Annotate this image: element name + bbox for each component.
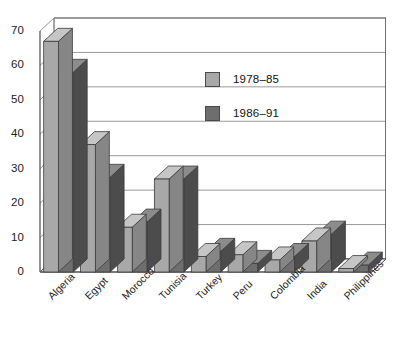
legend-swatch-icon [205,72,220,87]
y-tick-label-10: 10 [0,232,30,244]
legend-label: 1986–91 [233,107,279,119]
legend-swatch-icon [205,106,220,121]
y-tick-label-0: 0 [0,266,30,278]
legend-item-2: 1986–91 [205,96,335,130]
y-axis: 010203040506070 [0,0,30,358]
y-tick-label-30: 30 [0,163,30,175]
chart-legend: 1978–851986–91 [205,62,335,130]
y-tick-label-40: 40 [0,128,30,140]
y-tick-label-20: 20 [0,197,30,209]
bar-algeria-series1 [44,28,73,272]
legend-item-1: 1978–85 [205,62,335,96]
y-tick-label-60: 60 [0,59,30,71]
y-tick-label-70: 70 [0,25,30,37]
bars-layer [34,14,386,286]
plot-area [34,14,386,286]
legend-label: 1978–85 [233,73,279,85]
x-axis: AlgeriaEgyptMoroccoTunisiaTurkeyPeruColo… [34,288,386,358]
bar-series-graphics [34,14,386,286]
bar-chart: 010203040506070 AlgeriaEgyptMoroccoTunis… [0,0,400,358]
y-tick-label-50: 50 [0,94,30,106]
